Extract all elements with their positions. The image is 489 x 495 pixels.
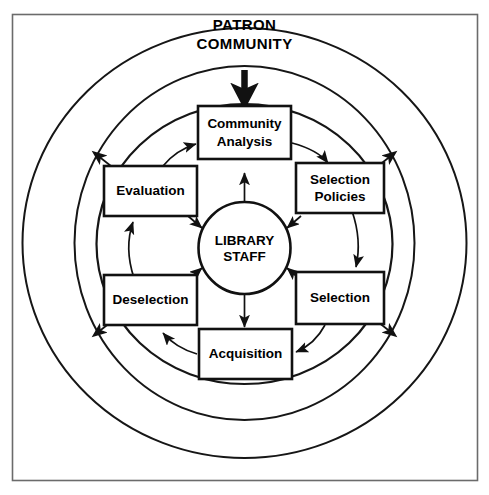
flow-acquisition-to-deselection bbox=[163, 333, 197, 354]
flow-deselection-to-evaluation bbox=[129, 222, 134, 278]
node-evaluation-label: Evaluation bbox=[116, 183, 184, 198]
node-selection-policies-label-line2: Policies bbox=[314, 189, 365, 204]
node-community-analysis[interactable]: Community Analysis bbox=[198, 106, 291, 159]
node-community-analysis-label-line2: Analysis bbox=[217, 134, 273, 149]
node-selection-label: Selection bbox=[310, 290, 370, 305]
node-selection-policies[interactable]: Selection Policies bbox=[296, 163, 384, 213]
library-staff-hub-label-line2: STAFF bbox=[223, 249, 266, 264]
node-selection-policies-label-line1: Selection bbox=[310, 172, 370, 187]
diagram-canvas: LIBRARY STAFF Community Analysis Selecti… bbox=[0, 0, 489, 495]
node-selection[interactable]: Selection bbox=[296, 272, 384, 324]
library-staff-hub-label-line1: LIBRARY bbox=[215, 233, 275, 248]
patron-community-label-line1: PATRON bbox=[213, 16, 277, 33]
spoke-policies-to-hub bbox=[287, 216, 301, 228]
patron-community-label-line2: COMMUNITY bbox=[196, 35, 292, 52]
node-acquisition[interactable]: Acquisition bbox=[199, 329, 292, 379]
node-acquisition-label: Acquisition bbox=[209, 346, 283, 361]
flow-analysis-to-policies bbox=[292, 143, 328, 163]
node-community-analysis-label-line1: Community bbox=[207, 116, 282, 131]
node-evaluation[interactable]: Evaluation bbox=[104, 166, 197, 216]
node-community-analysis-box[interactable] bbox=[198, 106, 291, 159]
collection-development-cycle-diagram: LIBRARY STAFF Community Analysis Selecti… bbox=[0, 0, 489, 495]
flow-policies-to-selection bbox=[352, 211, 358, 267]
spoke-evaluation-to-hub bbox=[188, 216, 202, 228]
node-deselection-label: Deselection bbox=[113, 292, 189, 307]
patron-community-label: PATRON COMMUNITY bbox=[196, 16, 292, 52]
flow-selection-to-acquisition bbox=[296, 325, 325, 352]
flow-evaluation-to-analysis bbox=[163, 144, 196, 166]
node-deselection[interactable]: Deselection bbox=[104, 275, 197, 325]
